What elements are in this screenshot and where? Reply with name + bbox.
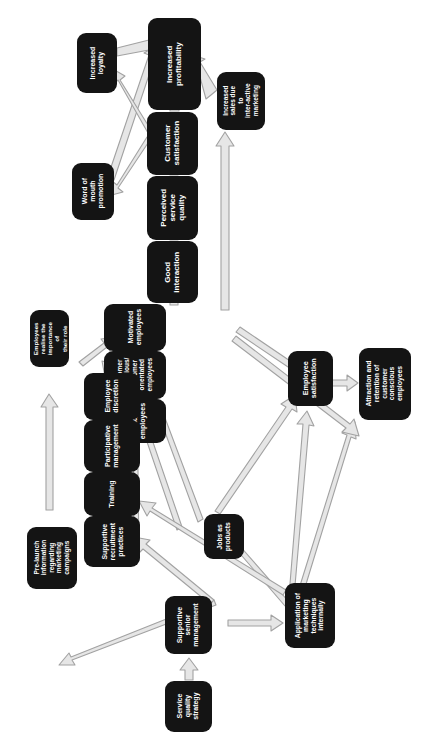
node-label: Attraction andretention of customerconsc…	[365, 358, 404, 410]
diagram-canvas: .ar{fill:#e6e6e6;stroke:#a2a2a2;stroke-w…	[0, 0, 442, 738]
node-good-interaction[interactable]: Goodinteraction	[147, 241, 198, 303]
edge-seniormgmt-to-recruitment	[134, 537, 214, 604]
edge-strategy-to-seniormgmt	[180, 658, 198, 680]
node-label: Supportiverecruitmentpractices	[100, 517, 123, 566]
node-label: Customersatisfaction	[163, 118, 181, 169]
node-application-marketing-internally[interactable]: Application ofmarketingtechniquesinterna…	[285, 583, 335, 648]
edge-salesminded-to-increasedsales	[216, 132, 234, 310]
node-label: Increasedprofitability	[165, 38, 183, 91]
node-label: Training	[108, 473, 116, 515]
node-customer-satisfaction[interactable]: Customersatisfaction	[147, 112, 198, 175]
node-motivated-employees[interactable]: Motivatedemployees	[104, 304, 166, 351]
node-employee-discretion[interactable]: Employeediscretion	[84, 373, 140, 420]
edge-prelaunch-to-realise	[41, 394, 58, 510]
node-label: Goodinteraction	[163, 247, 181, 298]
node-training[interactable]: Training	[84, 472, 140, 516]
node-label: Service qualitystrategy	[176, 683, 200, 730]
edge-seniormgmt-to-appmkt	[228, 615, 283, 631]
node-label: Employeesatisfaction	[302, 356, 319, 401]
node-label: Motivatedemployees	[127, 305, 143, 350]
node-label: Perceivedservice quality	[159, 183, 187, 234]
node-label: Supportiveseniormanagement	[176, 601, 200, 648]
node-label: Jobs asproducts	[216, 517, 232, 557]
edge-empsat-to-attraction	[332, 375, 358, 391]
node-supportive-senior-management[interactable]: Supportiveseniormanagement	[165, 596, 212, 654]
node-prelaunch-information[interactable]: Pre-launchinformationregardingmarketingc…	[27, 527, 77, 589]
node-participative-management[interactable]: Participativemanagement	[84, 420, 140, 472]
node-supportive-recruitment-practices[interactable]: Supportiverecruitmentpractices	[84, 516, 140, 567]
node-increased-loyalty[interactable]: Increasedloyalty	[77, 33, 117, 93]
node-label: Employeesrealise theimportance oftheir r…	[32, 319, 68, 358]
node-label: Application ofmarketingtechniquesinterna…	[294, 591, 325, 641]
node-label: Word ofmouthpromotion	[81, 170, 105, 212]
node-increased-sales-interactive[interactable]: Increasedsales duetointer-activemarketin…	[217, 72, 265, 130]
node-label: Employeediscretion	[104, 374, 120, 419]
node-service-quality-strategy[interactable]: Service qualitystrategy	[165, 681, 212, 732]
node-label: Pre-launchinformationregardingmarketingc…	[33, 533, 70, 583]
node-word-of-mouth-promotion[interactable]: Word ofmouthpromotion	[72, 163, 114, 220]
node-label: Increasedsales duetointer-activemarketin…	[222, 77, 259, 125]
node-perceived-service-quality[interactable]: Perceivedservice quality	[147, 176, 198, 240]
node-employees-realise-importance[interactable]: Employeesrealise theimportance oftheir r…	[30, 310, 69, 367]
node-increased-profitability[interactable]: Increasedprofitability	[148, 18, 201, 110]
node-jobs-as-products[interactable]: Jobs asproducts	[204, 514, 244, 559]
node-attraction-retention[interactable]: Attraction andretention of customerconsc…	[359, 348, 411, 420]
node-label: Increasedloyalty	[89, 43, 105, 83]
node-label: Participativemanagement	[104, 421, 120, 471]
edge-jobs-to-empsat	[215, 395, 297, 514]
node-employee-satisfaction[interactable]: Employeesatisfaction	[288, 351, 333, 406]
